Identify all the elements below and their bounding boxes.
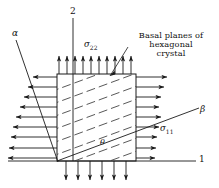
axis-1-label: 1 (199, 154, 205, 164)
sigma-22-label: σ22 (84, 40, 97, 51)
beta-axis-line (57, 108, 199, 161)
sigma-22-subscript: 22 (90, 44, 98, 51)
element-rectangle (57, 74, 136, 161)
caption-line-3: crystal (124, 49, 218, 58)
stress-arrows-top (59, 56, 131, 74)
sigma-11-subscript: 11 (166, 128, 174, 135)
stress-arrows-bottom (66, 161, 126, 180)
basal-plane-hatching (50, 57, 145, 188)
theta-angle-label: θ (100, 139, 105, 148)
figure-container: 2 1 α β θ σ22 σ11 Basal planes of hexago… (0, 0, 219, 188)
sigma-11-label: σ11 (160, 124, 173, 135)
axis-2-label: 2 (70, 6, 76, 16)
alpha-axis-line (16, 40, 58, 162)
stress-arrows-right (136, 77, 167, 158)
alpha-axis-label: α (12, 28, 18, 38)
basal-planes-caption: Basal planes of hexagonal crystal (124, 31, 218, 59)
beta-axis-label: β (200, 104, 205, 114)
diagram-canvas (0, 0, 219, 188)
